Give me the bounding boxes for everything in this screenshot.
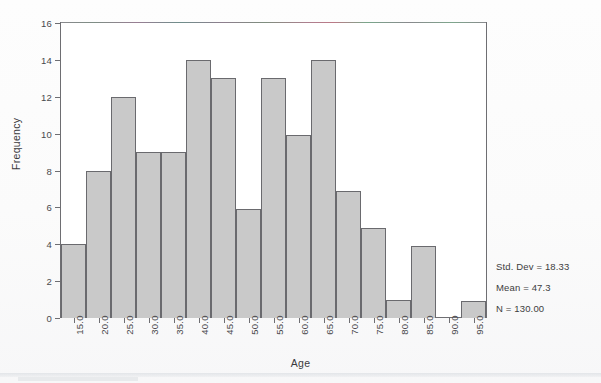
x-tick-label: 80.0 bbox=[399, 315, 410, 334]
histogram-bar bbox=[111, 97, 136, 318]
histogram-bar bbox=[61, 244, 86, 318]
y-tick-label: 8 bbox=[47, 165, 52, 176]
histogram-bar bbox=[336, 191, 361, 318]
histogram-bar bbox=[236, 209, 261, 318]
y-axis-title: Frequency bbox=[10, 118, 22, 170]
y-tick-mark bbox=[55, 23, 60, 24]
histogram-bar bbox=[136, 152, 161, 318]
x-tick-label: 60.0 bbox=[299, 315, 310, 334]
x-axis-title: Age bbox=[0, 357, 601, 369]
x-tick-label: 75.0 bbox=[374, 315, 385, 334]
histogram-bar bbox=[211, 78, 236, 318]
x-tick-label: 45.0 bbox=[224, 315, 235, 334]
histogram-bar bbox=[411, 246, 436, 318]
x-tick-label: 95.0 bbox=[474, 315, 485, 334]
histogram-bar bbox=[186, 60, 211, 318]
x-tick-label: 25.0 bbox=[124, 315, 135, 334]
histogram-bar bbox=[311, 60, 336, 318]
y-tick-label: 14 bbox=[41, 54, 52, 65]
histogram-bar bbox=[361, 228, 386, 318]
x-tick-label: 15.0 bbox=[74, 315, 85, 334]
y-tick-mark bbox=[55, 318, 60, 319]
x-tick-label: 90.0 bbox=[449, 315, 460, 334]
histogram-bar bbox=[161, 152, 186, 318]
histogram-bar bbox=[286, 135, 311, 318]
y-tick-label: 16 bbox=[41, 18, 52, 29]
x-tick-label: 35.0 bbox=[174, 315, 185, 334]
y-tick-mark bbox=[55, 244, 60, 245]
y-tick-mark bbox=[55, 134, 60, 135]
x-tick-label: 65.0 bbox=[324, 315, 335, 334]
x-tick-label: 50.0 bbox=[249, 315, 260, 334]
stat-n: N = 130.00 bbox=[496, 298, 598, 319]
histogram-bar bbox=[86, 171, 111, 319]
histogram-figure: 0246810121416 15.020.025.030.035.040.045… bbox=[0, 0, 601, 383]
histogram-bar bbox=[261, 78, 286, 318]
stat-std-dev: Std. Dev = 18.33 bbox=[496, 256, 598, 277]
x-tick-label: 85.0 bbox=[424, 315, 435, 334]
statistics-annotation: Std. Dev = 18.33 Mean = 47.3 N = 130.00 bbox=[496, 256, 598, 319]
scan-artifact-rule-secondary bbox=[18, 377, 138, 381]
x-tick-label: 20.0 bbox=[99, 315, 110, 334]
y-tick-mark bbox=[55, 60, 60, 61]
y-tick-label: 4 bbox=[47, 239, 52, 250]
y-tick-mark bbox=[55, 281, 60, 282]
stat-mean: Mean = 47.3 bbox=[496, 277, 598, 298]
x-tick-label: 55.0 bbox=[274, 315, 285, 334]
x-tick-label: 40.0 bbox=[199, 315, 210, 334]
x-tick-label: 30.0 bbox=[149, 315, 160, 334]
y-tick-mark bbox=[55, 171, 60, 172]
y-tick-label: 0 bbox=[47, 313, 52, 324]
y-tick-mark bbox=[55, 207, 60, 208]
y-tick-mark bbox=[55, 97, 60, 98]
y-tick-label: 6 bbox=[47, 202, 52, 213]
histogram-bars bbox=[61, 23, 486, 318]
y-tick-label: 2 bbox=[47, 276, 52, 287]
x-tick-label: 70.0 bbox=[349, 315, 360, 334]
y-tick-label: 12 bbox=[41, 91, 52, 102]
y-tick-label: 10 bbox=[41, 128, 52, 139]
